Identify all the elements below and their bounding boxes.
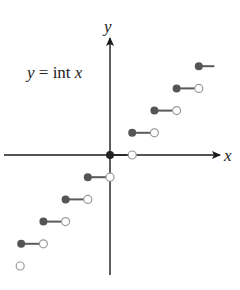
open-endpoint-dot	[128, 151, 136, 159]
closed-endpoint-dot	[195, 62, 203, 70]
closed-endpoint-dot	[173, 84, 181, 92]
open-endpoint-dot	[150, 129, 158, 137]
step-segment	[173, 84, 203, 92]
y-axis-label: y	[102, 17, 112, 36]
open-endpoint-dot	[195, 84, 203, 92]
open-endpoint-dot	[173, 107, 181, 115]
closed-endpoint-dot	[17, 240, 25, 248]
step-segment	[195, 62, 215, 70]
closed-endpoint-dot	[39, 218, 47, 226]
open-endpoint-dot	[39, 240, 47, 248]
open-endpoint-dot	[62, 218, 70, 226]
step-segment	[84, 173, 114, 181]
closed-endpoint-dot	[62, 195, 70, 203]
step-segment	[39, 218, 69, 226]
equation-middle: = int	[35, 63, 75, 82]
open-endpoint-dot	[16, 262, 24, 270]
step-segment	[106, 151, 136, 159]
step-segment	[128, 129, 158, 137]
x-axis-label: x	[223, 146, 232, 165]
closed-endpoint-dot	[128, 129, 136, 137]
closed-endpoint-dot	[106, 151, 114, 159]
step-segments	[16, 62, 214, 270]
open-endpoint-dot	[106, 173, 114, 181]
function-equation-label: y = int x	[25, 63, 83, 82]
equation-x: x	[74, 63, 83, 82]
closed-endpoint-dot	[84, 173, 92, 181]
equation-y: y	[25, 63, 35, 82]
step-segment	[62, 195, 92, 203]
step-segment	[150, 107, 180, 115]
open-endpoint-dot	[84, 195, 92, 203]
step-segment	[17, 240, 47, 248]
step-function-graph: x y y = int x	[0, 0, 240, 290]
closed-endpoint-dot	[150, 107, 158, 115]
